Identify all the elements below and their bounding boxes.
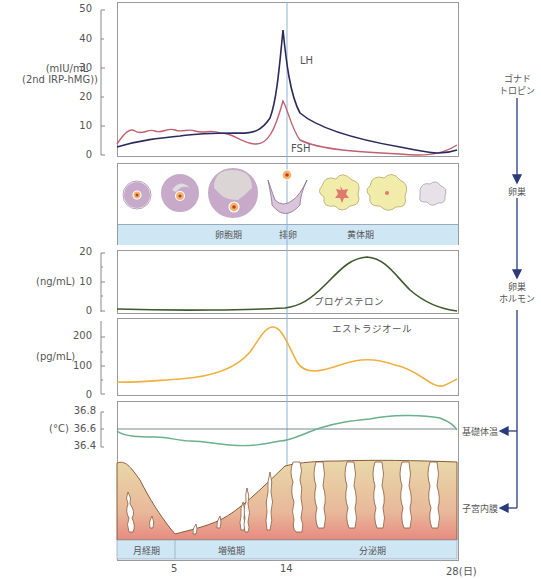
label-ovary: 卵巣 — [487, 186, 541, 198]
phase-secretory: 分泌期 — [287, 544, 457, 557]
phase-menstrual: 月経期 — [117, 544, 175, 557]
ovarian-hormone-line-1: 卵巣 — [487, 281, 541, 293]
x-tick-5: 5 — [171, 563, 177, 574]
label-gonadotropin: ゴナド トロピン — [487, 73, 541, 97]
phase-proliferative: 増殖期 — [175, 544, 287, 557]
label-bbt: 基礎体温 — [462, 425, 498, 438]
label-endometrium: 子宮内膜 — [462, 502, 498, 515]
gonadotropin-line-1: ゴナド — [487, 73, 541, 85]
gonadotropin-line-2: トロピン — [487, 85, 541, 97]
x-tick-28: 28(日) — [446, 563, 477, 578]
chart-graphics: LH FSH プロゲステロン エストラジオール — [0, 0, 541, 579]
x-tick-14: 14 — [280, 563, 293, 574]
svg-text:プロゲステロン: プロゲステロン — [314, 296, 384, 307]
svg-text:LH: LH — [300, 55, 313, 66]
ovarian-hormone-line-2: ホルモン — [487, 293, 541, 305]
svg-text:エストラジオール: エストラジオール — [332, 323, 412, 334]
svg-text:FSH: FSH — [291, 143, 310, 154]
follicle-illustrations — [123, 167, 446, 219]
label-ovarian-hormone: 卵巣 ホルモン — [487, 281, 541, 305]
